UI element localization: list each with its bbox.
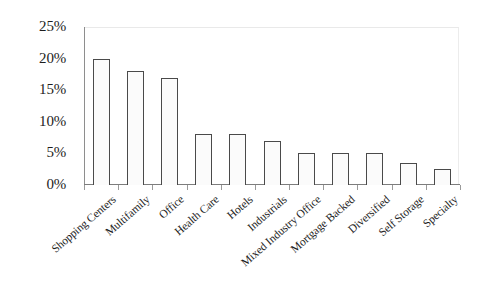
x-axis-tick-mark (152, 185, 153, 190)
x-axis-tick-mark (221, 185, 222, 190)
bar-chart: 0%5%10%15%20%25% Shopping CentersMultifa… (0, 0, 489, 298)
x-axis-tick-mark (187, 185, 188, 190)
x-axis-category-labels: Shopping CentersMultifamilyOfficeHealth … (0, 0, 489, 298)
x-axis-tick-mark (460, 185, 461, 190)
x-axis-tick-mark (392, 185, 393, 190)
x-axis-tick-mark (426, 185, 427, 190)
x-axis-tick-mark (118, 185, 119, 190)
x-axis-tick-mark (357, 185, 358, 190)
x-axis-tick-mark (289, 185, 290, 190)
x-axis-tick-mark (84, 185, 85, 190)
x-axis-tick-mark (323, 185, 324, 190)
x-axis-tick-mark (255, 185, 256, 190)
